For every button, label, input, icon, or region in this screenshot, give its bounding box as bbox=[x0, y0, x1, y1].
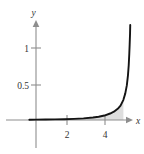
data-curve bbox=[29, 25, 130, 120]
y-axis-label: y bbox=[31, 8, 37, 18]
x-axis-label: x bbox=[135, 116, 141, 126]
chart-figure: 1 0.5 2 4 y x bbox=[0, 0, 144, 154]
y-axis-arrow-icon bbox=[33, 20, 40, 27]
x-axis-tick-label-4: 4 bbox=[103, 130, 108, 140]
y-axis-tick-label-1: 1 bbox=[24, 44, 29, 54]
x-axis-arrow-icon bbox=[126, 117, 133, 124]
plot-canvas: 1 0.5 2 4 y x bbox=[0, 0, 144, 154]
y-axis-tick-label-0-5: 0.5 bbox=[17, 81, 29, 91]
x-axis-tick-label-2: 2 bbox=[65, 130, 70, 140]
shaded-area-under-curve bbox=[36, 100, 123, 120]
